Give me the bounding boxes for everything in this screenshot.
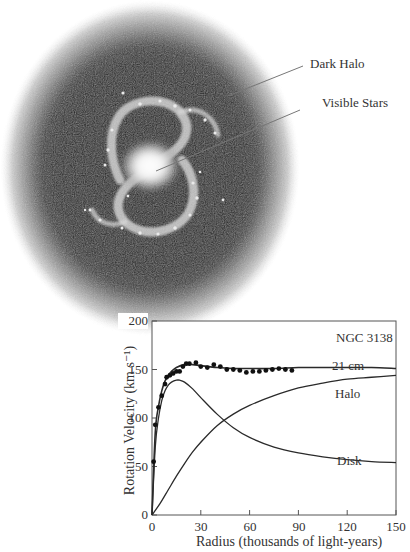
data-point-21cm	[237, 368, 242, 373]
data-point-21cm	[224, 367, 229, 372]
y-tick-label: 200	[118, 313, 148, 329]
x-tick-label: 0	[132, 519, 172, 535]
data-point-21cm	[231, 367, 236, 372]
data-point-21cm	[198, 364, 203, 369]
data-point-21cm	[194, 360, 199, 365]
data-point-21cm	[156, 405, 161, 410]
chart-title: NGC 3138	[336, 330, 393, 346]
data-point-21cm	[276, 366, 281, 371]
rotation-curve-chart	[0, 0, 410, 552]
data-point-21cm	[270, 367, 275, 372]
data-point-21cm	[289, 368, 294, 373]
data-point-21cm	[151, 459, 156, 464]
x-tick-label: 60	[230, 519, 270, 535]
x-tick-label: 120	[327, 519, 367, 535]
data-point-21cm	[177, 369, 182, 374]
data-point-21cm	[153, 422, 158, 427]
plot-frame	[152, 321, 396, 515]
series-label-21cm: 21 cm	[332, 358, 364, 374]
data-point-21cm	[187, 361, 192, 366]
data-point-21cm	[205, 365, 210, 370]
x-tick-label: 90	[279, 519, 319, 535]
data-point-21cm	[211, 362, 216, 367]
x-axis-title: Radius (thousands of light-years)	[196, 534, 382, 550]
y-axis-title: Rotation Velocity (km s⁻¹)	[121, 336, 138, 506]
series-label-halo: Halo	[335, 386, 360, 402]
data-point-21cm	[263, 368, 268, 373]
data-point-21cm	[250, 369, 255, 374]
data-point-21cm	[218, 364, 223, 369]
x-tick-label: 30	[181, 519, 221, 535]
data-point-21cm	[244, 370, 249, 375]
data-point-21cm	[283, 367, 288, 372]
data-point-21cm	[257, 369, 262, 374]
series-label-disk: Disk	[337, 453, 362, 469]
data-point-21cm	[159, 393, 164, 398]
x-tick-label: 150	[376, 519, 410, 535]
data-point-21cm	[163, 382, 168, 387]
